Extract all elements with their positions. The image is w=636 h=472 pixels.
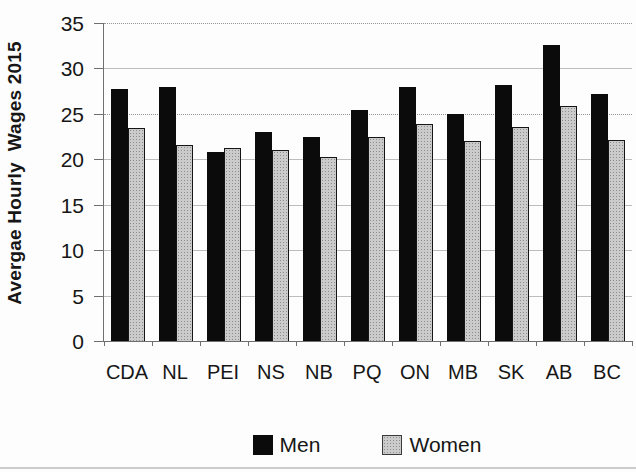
bar-men-nb (303, 137, 320, 341)
legend-label-women: Women (409, 433, 481, 457)
x-axis-label-mb: MB (439, 361, 487, 384)
bar-women-cda (128, 128, 145, 341)
bar-group-cda (104, 23, 152, 341)
x-axis-label-nb: NB (295, 361, 343, 384)
y-tick-label-0: 0 (72, 331, 84, 352)
bar-group-bc (584, 23, 632, 341)
x-tick-mark-2 (200, 341, 201, 346)
x-axis-label-cda: CDA (103, 361, 151, 384)
x-axis-label-ab: AB (535, 361, 583, 384)
legend: MenWomen (103, 433, 631, 457)
y-tick-label-35: 35 (61, 13, 84, 34)
bar-men-ab (543, 45, 560, 341)
bar-men-sk (495, 85, 512, 341)
bar-women-pei (224, 148, 241, 341)
bar-women-nl (176, 145, 193, 341)
bar-men-nl (159, 87, 176, 341)
y-tick-mark-20 (94, 159, 103, 160)
bar-women-sk (512, 127, 529, 341)
x-tick-mark-4 (296, 341, 297, 346)
plot-area (103, 23, 632, 342)
bar-men-bc (591, 94, 608, 341)
x-tick-mark-6 (392, 341, 393, 346)
x-tick-mark-8 (488, 341, 489, 346)
bar-women-ab (560, 106, 577, 341)
legend-swatch-men (253, 435, 273, 455)
chart: Avergae Hourly Wages 2015 05101520253035… (0, 0, 636, 472)
y-axis-labels: 05101520253035 (0, 23, 84, 341)
bar-women-on (416, 124, 433, 341)
y-tick-mark-30 (94, 68, 103, 69)
x-tick-mark-0 (104, 341, 105, 346)
bar-men-pq (351, 110, 368, 341)
bar-women-bc (608, 140, 625, 341)
x-axis-label-bc: BC (583, 361, 631, 384)
x-tick-mark-1 (152, 341, 153, 346)
bar-women-ns (272, 150, 289, 341)
y-tick-label-5: 5 (72, 285, 84, 306)
x-tick-mark-10 (584, 341, 585, 346)
scan-artifact-line (0, 467, 636, 469)
y-tick-mark-25 (94, 114, 103, 115)
y-tick-label-20: 20 (61, 149, 84, 170)
y-tick-label-25: 25 (61, 103, 84, 124)
bars-container (104, 23, 632, 341)
y-tick-mark-0 (94, 341, 103, 342)
y-tick-label-30: 30 (61, 58, 84, 79)
x-tick-mark-7 (440, 341, 441, 346)
x-axis-label-sk: SK (487, 361, 535, 384)
bar-men-cda (111, 89, 128, 341)
bar-group-nb (296, 23, 344, 341)
x-axis-labels: CDANLPEINSNBPQONMBSKABBC (103, 361, 631, 384)
bar-men-pei (207, 152, 224, 341)
x-tick-mark-11 (632, 341, 633, 346)
x-axis-label-ns: NS (247, 361, 295, 384)
legend-item-men: Men (253, 433, 321, 457)
bar-group-pq (344, 23, 392, 341)
y-tick-mark-15 (94, 205, 103, 206)
legend-label-men: Men (280, 433, 321, 457)
x-axis-label-on: ON (391, 361, 439, 384)
bar-group-nl (152, 23, 200, 341)
bar-women-nb (320, 157, 337, 341)
bar-men-on (399, 87, 416, 341)
legend-item-women: Women (382, 433, 481, 457)
bar-group-mb (440, 23, 488, 341)
x-tick-mark-3 (248, 341, 249, 346)
bar-women-mb (464, 141, 481, 341)
x-tick-mark-9 (536, 341, 537, 346)
y-tick-mark-5 (94, 296, 103, 297)
y-tick-mark-35 (94, 23, 103, 24)
legend-swatch-women (382, 435, 402, 455)
bar-group-on (392, 23, 440, 341)
x-tick-mark-5 (344, 341, 345, 346)
bar-women-pq (368, 137, 385, 341)
x-axis-label-pq: PQ (343, 361, 391, 384)
bar-group-ab (536, 23, 584, 341)
bar-group-pei (200, 23, 248, 341)
bar-group-sk (488, 23, 536, 341)
y-tick-label-10: 10 (61, 240, 84, 261)
bar-men-mb (447, 114, 464, 341)
y-tick-mark-10 (94, 250, 103, 251)
bar-men-ns (255, 132, 272, 341)
x-axis-label-pei: PEI (199, 361, 247, 384)
x-axis-label-nl: NL (151, 361, 199, 384)
y-tick-label-15: 15 (61, 194, 84, 215)
bar-group-ns (248, 23, 296, 341)
